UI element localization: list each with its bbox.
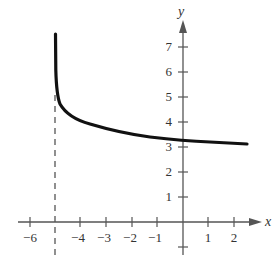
function-curve xyxy=(56,34,248,144)
y-tick-labels: 7 6 5 4 3 2 1 xyxy=(166,39,173,204)
y-axis-label: y xyxy=(176,4,185,19)
x-tick-label: 1 xyxy=(205,230,212,245)
x-tick-label: −1 xyxy=(148,230,162,245)
y-tick-label: 7 xyxy=(166,39,173,54)
y-tick-label: 6 xyxy=(166,64,173,79)
x-tick-label: −3 xyxy=(97,230,111,245)
y-tick-label: 5 xyxy=(166,89,173,104)
x-tick-label: −2 xyxy=(123,230,137,245)
y-tick-label: 3 xyxy=(166,139,173,154)
chart-canvas: x y −6 −4 −3 −2 −1 1 2 7 6 5 4 3 xyxy=(0,0,274,262)
y-axis-arrow-icon xyxy=(179,20,187,33)
x-tick-label: −4 xyxy=(71,230,85,245)
x-axis-label: x xyxy=(264,214,272,229)
y-tick-label: 2 xyxy=(166,164,173,179)
y-tick-label: 1 xyxy=(166,189,173,204)
y-tick-label: 4 xyxy=(166,114,173,129)
x-tick-label: 2 xyxy=(231,230,238,245)
x-axis-arrow-icon xyxy=(249,218,262,226)
x-tick-label: −6 xyxy=(23,230,37,245)
